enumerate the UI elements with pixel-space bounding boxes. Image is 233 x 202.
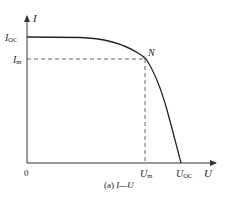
point-n-label: N (147, 47, 156, 58)
iu-curve (27, 37, 181, 163)
i-oc-label: IOC (4, 32, 17, 43)
origin-label: 0 (24, 168, 29, 178)
u-m-label: Um (140, 168, 152, 179)
i-m-label: Im (12, 54, 21, 65)
u-oc-label: UOC (176, 168, 192, 179)
y-axis-label: I (32, 12, 38, 24)
iu-diagram: I U 0 IOC Im N Um UOC (a) I—U (0, 0, 233, 202)
x-axis-label: U (204, 167, 213, 179)
figure-caption: (a) I—U (104, 180, 134, 190)
